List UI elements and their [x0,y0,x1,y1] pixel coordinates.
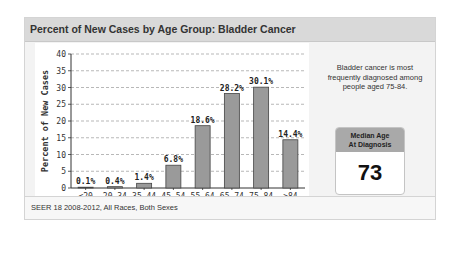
bar-value-label: 0.4% [105,177,124,186]
median-age-header: Median Age At Diagnosis [336,128,404,152]
bar-value-label: 0.1% [76,177,95,186]
bar [137,183,152,188]
summary-text: Bladder cancer is most frequently diagno… [325,63,425,92]
bar [283,140,298,188]
bar-value-label: 6.8% [164,155,183,164]
panel-header: Percent of New Cases by Age Group: Bladd… [25,18,435,42]
bar-value-label: 28.2% [220,84,244,93]
median-age-value: 73 [336,152,404,186]
median-label-line1: Median Age [336,131,404,140]
bar [254,87,269,188]
panel-footer: SEER 18 2008-2012, All Races, Both Sexes [25,196,435,219]
y-tick-label: 5 [61,167,66,176]
y-tick-label: 10 [56,151,66,160]
y-tick-label: 20 [56,117,66,126]
bar-chart-svg: 05101520253035400.1%<200.4%20-341.4%35-4… [35,43,309,213]
y-tick-label: 15 [56,134,66,143]
bar [107,187,122,188]
y-tick-label: 30 [56,84,66,93]
bar-chart: 05101520253035400.1%<200.4%20-341.4%35-4… [35,43,309,213]
bar-value-label: 18.6% [191,116,215,125]
bar [166,165,181,188]
y-tick-label: 0 [61,184,66,193]
panel-title: Percent of New Cases by Age Group: Bladd… [30,23,296,35]
bar [224,94,239,188]
side-panel: Bladder cancer is most frequently diagno… [317,43,437,213]
median-age-card: Median Age At Diagnosis 73 [335,127,405,195]
bar-value-label: 14.4% [278,130,302,139]
bar-value-label: 1.4% [134,173,153,182]
source-note: SEER 18 2008-2012, All Races, Both Sexes [31,203,178,212]
bar-value-label: 30.1% [249,77,273,86]
bar [78,187,93,188]
y-tick-label: 35 [56,67,66,76]
y-tick-label: 40 [56,50,66,59]
bar [195,126,210,188]
y-axis-title: Percent of New Cases [40,70,50,172]
y-tick-label: 25 [56,100,66,109]
median-label-line2: At Diagnosis [336,140,404,149]
chart-panel: Percent of New Cases by Age Group: Bladd… [24,17,436,220]
